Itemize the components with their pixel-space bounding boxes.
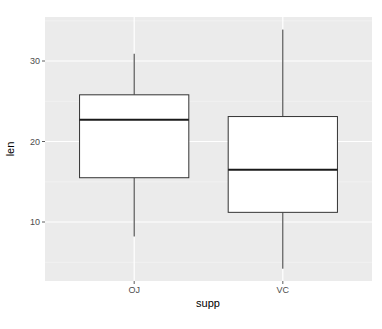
x-axis: OJVC: [128, 281, 289, 295]
iqr-box: [228, 117, 337, 213]
x-tick-label: VC: [277, 285, 290, 295]
x-axis-title: supp: [196, 297, 220, 309]
boxplot-chart: 102030 OJVC len supp: [0, 0, 382, 329]
y-tick-label: 10: [30, 217, 40, 227]
y-tick-label: 30: [30, 56, 40, 66]
iqr-box: [80, 95, 189, 178]
y-axis-title: len: [4, 142, 16, 157]
y-tick-label: 20: [30, 137, 40, 147]
x-tick-label: OJ: [128, 285, 140, 295]
y-axis: 102030: [30, 56, 45, 227]
